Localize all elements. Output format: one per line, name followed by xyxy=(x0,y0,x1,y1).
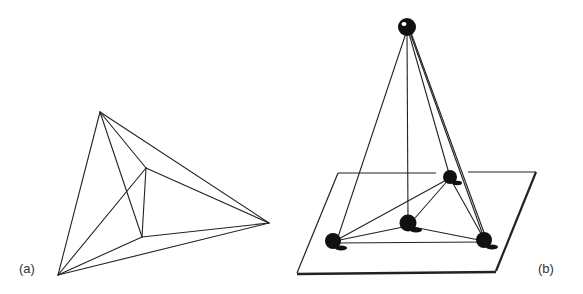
panel-b-balls xyxy=(325,18,498,251)
panel-a-wireframe xyxy=(58,112,269,275)
base-ball-center xyxy=(400,215,423,233)
diagram-canvas xyxy=(0,0,583,294)
base-ball-right xyxy=(476,232,498,250)
panel-a-label: (a) xyxy=(19,261,35,276)
apex-ball xyxy=(398,18,416,36)
panel-b-label: (b) xyxy=(538,261,554,276)
panel-b-rods xyxy=(335,30,486,243)
